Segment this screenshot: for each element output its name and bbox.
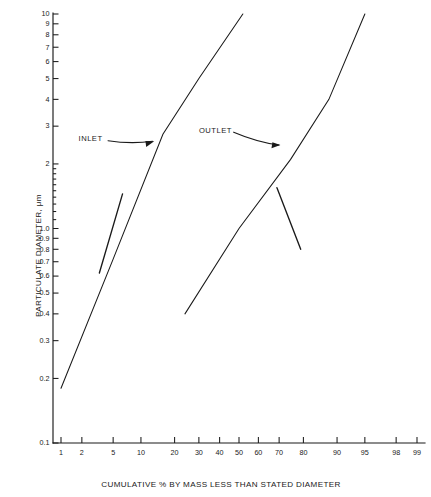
chart-background xyxy=(0,0,431,497)
y-tick-label: 8 xyxy=(46,30,50,39)
x-tick-label: 20 xyxy=(171,448,179,457)
x-tick-label: 95 xyxy=(361,448,369,457)
annotation-label-outlet: OUTLET xyxy=(199,126,232,135)
y-tick-label: 3 xyxy=(46,121,50,130)
x-tick-label: 80 xyxy=(299,448,307,457)
y-tick-label: 9 xyxy=(46,19,50,28)
x-axis-title: CUMULATIVE % BY MASS LESS THAN STATED DI… xyxy=(101,480,340,489)
x-tick-label: 98 xyxy=(392,448,400,457)
y-axis-title: PARTICULATE DIAMETER, μm xyxy=(34,194,43,317)
chart-figure: 0.10.20.30.40.50.60.70.80.91.02345678910… xyxy=(0,0,431,497)
x-tick-label: 40 xyxy=(216,448,224,457)
y-tick-label: 10 xyxy=(42,9,50,18)
x-tick-label: 2 xyxy=(80,448,84,457)
x-tick-label: 70 xyxy=(275,448,283,457)
x-tick-label: 99 xyxy=(413,448,421,457)
y-tick-label: 6 xyxy=(46,57,50,66)
x-tick-label: 30 xyxy=(195,448,203,457)
x-tick-label: 60 xyxy=(254,448,262,457)
y-tick-label: 5 xyxy=(46,74,50,83)
x-tick-label: 5 xyxy=(111,448,115,457)
log-probability-chart: 0.10.20.30.40.50.60.70.80.91.02345678910… xyxy=(0,0,431,497)
y-tick-label: 4 xyxy=(46,95,50,104)
x-tick-label: 10 xyxy=(137,448,145,457)
x-tick-label: 50 xyxy=(235,448,243,457)
y-tick-label: 7 xyxy=(46,43,50,52)
x-tick-label: 1 xyxy=(59,448,63,457)
y-tick-label: 0.1 xyxy=(40,438,50,447)
annotation-label-inlet: INLET xyxy=(79,134,103,143)
y-tick-label: 2 xyxy=(46,159,50,168)
y-tick-label: 0.2 xyxy=(40,374,50,383)
y-tick-label: 0.3 xyxy=(40,336,50,345)
x-tick-label: 90 xyxy=(333,448,341,457)
